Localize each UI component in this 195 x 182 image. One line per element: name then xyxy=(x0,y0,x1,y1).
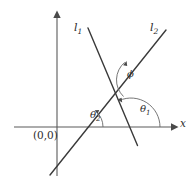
angle-label-theta1: θ1 xyxy=(140,104,151,117)
line-label-l1: l1 xyxy=(74,22,82,36)
line-l2 xyxy=(50,30,166,175)
geometry-figure: l1 l2 ϕ θ1 θ2 (0,0) x xyxy=(0,0,195,182)
y-axis-arrowhead xyxy=(53,11,60,19)
line-l1 xyxy=(88,28,138,146)
y-axis xyxy=(53,11,60,177)
angle-label-phi: ϕ xyxy=(127,69,134,79)
angle-arc-phi xyxy=(117,61,128,97)
figure-canvas xyxy=(0,0,195,182)
x-axis-arrowhead xyxy=(171,123,179,131)
angle-label-theta2: θ2 xyxy=(90,110,101,123)
line-label-l2: l2 xyxy=(150,22,158,36)
x-axis-label: x xyxy=(180,118,186,129)
origin-label: (0,0) xyxy=(33,130,58,141)
